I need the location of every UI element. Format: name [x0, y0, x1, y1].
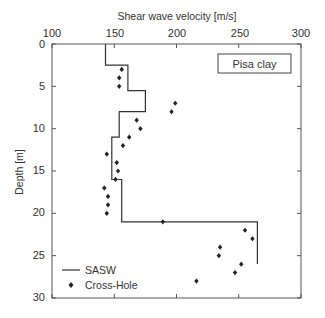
crosshole-diamond-marker: [106, 202, 110, 207]
crosshole-diamond-marker: [116, 168, 120, 173]
crosshole-diamond-marker: [194, 278, 198, 283]
y-tick-labels: 0 5 10 15 20 25 30: [33, 38, 45, 303]
legend-label-crosshole: Cross-Hole: [85, 279, 138, 291]
y-tick-label: 10: [33, 122, 45, 134]
y-tick-label: 20: [33, 206, 45, 218]
y-tick-label: 15: [33, 164, 45, 176]
crosshole-diamond-marker: [233, 270, 237, 275]
crosshole-diamond-marker: [121, 143, 125, 148]
x-tick-label: 250: [231, 27, 249, 39]
crosshole-diamond-marker: [105, 211, 109, 216]
crosshole-diamond-marker: [173, 101, 177, 106]
crosshole-diamond-marker: [117, 75, 121, 80]
crosshole-diamond-marker: [218, 245, 222, 250]
crosshole-diamond-marker: [217, 253, 221, 258]
legend-diamond-icon: [69, 282, 74, 288]
crosshole-diamond-marker: [239, 262, 243, 267]
x-tick-labels: 100 150 200 250 300: [43, 27, 310, 39]
crosshole-diamond-marker: [138, 126, 142, 131]
crosshole-markers: [102, 67, 255, 284]
crosshole-diamond-marker: [127, 135, 131, 140]
x-axis-title: Shear wave velocity [m/s]: [117, 10, 236, 22]
sasw-line: [106, 44, 258, 264]
crosshole-diamond-marker: [169, 109, 173, 114]
shear-wave-velocity-chart: Shear wave velocity [m/s] 100 150 200 25…: [0, 0, 325, 318]
crosshole-diamond-marker: [250, 236, 254, 241]
axis-ticks: [52, 44, 301, 298]
x-tick-label: 300: [292, 27, 310, 39]
crosshole-diamond-marker: [105, 151, 109, 156]
y-tick-label: 5: [39, 80, 45, 92]
crosshole-diamond-marker: [106, 194, 110, 199]
annotation-box: Pisa clay: [218, 54, 291, 73]
x-tick-label: 150: [106, 27, 124, 39]
y-tick-label: 30: [33, 291, 45, 303]
x-tick-label: 100: [43, 27, 61, 39]
y-axis-title: Depth [m]: [13, 149, 25, 195]
y-tick-label: 25: [33, 249, 45, 261]
plot-frame: [52, 44, 301, 298]
crosshole-diamond-marker: [161, 219, 165, 224]
crosshole-diamond-marker: [115, 160, 119, 165]
crosshole-diamond-marker: [134, 118, 138, 123]
crosshole-diamond-marker: [120, 67, 124, 72]
crosshole-diamond-marker: [243, 228, 247, 233]
crosshole-diamond-marker: [113, 177, 117, 182]
y-tick-label: 0: [39, 38, 45, 50]
x-tick-label: 200: [168, 27, 186, 39]
legend-label-sasw: SASW: [85, 264, 116, 276]
crosshole-diamond-marker: [117, 84, 121, 89]
crosshole-diamond-marker: [102, 185, 106, 190]
legend: SASW Cross-Hole: [62, 264, 138, 291]
annotation-label: Pisa clay: [232, 58, 277, 70]
